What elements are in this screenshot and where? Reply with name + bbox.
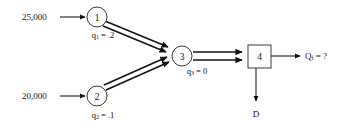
node-2-label: 2 — [95, 92, 100, 102]
node-1-param-equals: = — [99, 30, 108, 40]
node-4: 4 — [248, 45, 271, 68]
node-1-param: q1 = .2 — [92, 30, 115, 40]
node-1-param-value: .2 — [108, 30, 114, 40]
output-final-label: Qf = ? — [305, 51, 327, 61]
node-3-param-equals: = — [194, 66, 203, 76]
edge-node2-node3-upper — [104, 57, 167, 85]
node-3-param-value: 0 — [203, 66, 207, 76]
node-2-param-value: .1 — [108, 110, 114, 120]
diagram-canvas: 1 2 3 4 25,000 20,000 q1 = .2 q2 = .1 — [0, 0, 351, 130]
node-3-param: q3 = 0 — [187, 66, 208, 76]
node-3-label: 3 — [180, 52, 185, 62]
node-2-param: q2 = .1 — [92, 110, 115, 120]
output-value: ? — [323, 51, 327, 61]
input-value-2: 20,000 — [22, 91, 47, 101]
node-2: 2 — [87, 86, 107, 106]
edge-node2-to-node3 — [104, 57, 169, 90]
node-4-label: 4 — [257, 52, 262, 62]
node-2-param-equals: = — [99, 110, 108, 120]
departure-label: D — [253, 109, 260, 119]
node-1: 1 — [87, 7, 107, 27]
flow-diagram: 1 2 3 4 25,000 20,000 q1 = .2 q2 = .1 — [0, 0, 351, 130]
input-value-1: 25,000 — [22, 12, 47, 22]
node-1-label: 1 — [95, 13, 100, 23]
edge-node2-node3-lower — [106, 62, 169, 90]
edge-node1-node3-upper — [105, 21, 168, 47]
node-3: 3 — [172, 46, 192, 66]
output-equals: = — [314, 51, 324, 61]
edge-node3-to-node4 — [193, 52, 242, 60]
